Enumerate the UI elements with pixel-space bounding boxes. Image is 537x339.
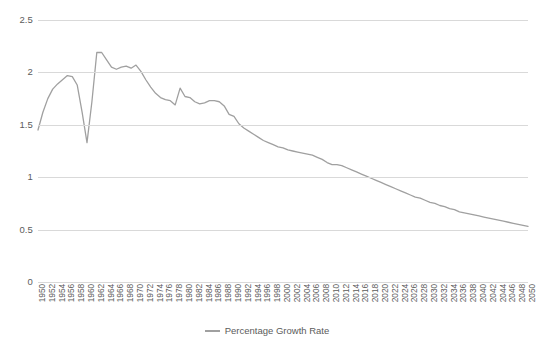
- gridline-1: [38, 177, 528, 178]
- x-axis-tick-2042: 2042: [484, 284, 494, 326]
- x-axis-tick-1952: 1952: [43, 284, 53, 326]
- x-axis-tick-1974: 1974: [151, 284, 161, 326]
- plot-area: [38, 20, 528, 282]
- y-axis: 2.521.510.50: [0, 20, 33, 282]
- x-axis-tick-2020: 2020: [376, 284, 386, 326]
- x-axis-tick-1956: 1956: [62, 284, 72, 326]
- y-axis-tick-2: 2: [3, 67, 33, 77]
- legend-label-percentage-growth-rate: Percentage Growth Rate: [225, 325, 330, 336]
- x-axis-tick-2006: 2006: [307, 284, 317, 326]
- gridline-2.5: [38, 20, 528, 21]
- x-axis-tick-label: 2050: [528, 284, 537, 302]
- x-axis-tick-2016: 2016: [356, 284, 366, 326]
- x-axis-tick-2018: 2018: [366, 284, 376, 326]
- x-axis-tick-2036: 2036: [454, 284, 464, 326]
- gridline-1.5: [38, 125, 528, 126]
- x-axis-tick-1964: 1964: [102, 284, 112, 326]
- chart-legend: Percentage Growth Rate: [0, 325, 534, 336]
- y-axis-tick-1: 1: [3, 172, 33, 182]
- x-axis-tick-1996: 1996: [258, 284, 268, 326]
- chart-title: [38, 0, 498, 3]
- gridline-0.5: [38, 230, 528, 231]
- x-axis-tick-2000: 2000: [278, 284, 288, 326]
- x-axis-tick-1976: 1976: [160, 284, 170, 326]
- x-axis-tick-1958: 1958: [72, 284, 82, 326]
- y-axis-tick-1.5: 1.5: [3, 120, 33, 130]
- x-axis-tick-2004: 2004: [298, 284, 308, 326]
- gridline-2: [38, 72, 528, 73]
- x-axis-tick-1950: 1950: [33, 284, 43, 326]
- x-axis-tick-1968: 1968: [121, 284, 131, 326]
- legend-line-swatch: [205, 330, 220, 332]
- x-axis-tick-1992: 1992: [239, 284, 249, 326]
- x-axis-tick-1980: 1980: [180, 284, 190, 326]
- x-axis-tick-1982: 1982: [190, 284, 200, 326]
- x-axis-tick-1998: 1998: [268, 284, 278, 326]
- x-axis-tick-2030: 2030: [425, 284, 435, 326]
- x-axis-tick-1988: 1988: [219, 284, 229, 326]
- x-axis-tick-2014: 2014: [347, 284, 357, 326]
- x-axis-tick-1970: 1970: [131, 284, 141, 326]
- x-axis: 1950195219541956195819601962196419661968…: [38, 284, 528, 328]
- x-axis-tick-2012: 2012: [337, 284, 347, 326]
- x-axis-tick-1960: 1960: [82, 284, 92, 326]
- x-axis-tick-2050: 2050: [523, 284, 533, 326]
- x-axis-tick-2002: 2002: [288, 284, 298, 326]
- x-axis-tick-2034: 2034: [445, 284, 455, 326]
- series-line: [38, 52, 528, 226]
- y-axis-tick-2.5: 2.5: [3, 15, 33, 25]
- x-axis-tick-2024: 2024: [396, 284, 406, 326]
- y-axis-tick-0.5: 0.5: [3, 225, 33, 235]
- x-axis-tick-1966: 1966: [111, 284, 121, 326]
- x-axis-tick-2028: 2028: [415, 284, 425, 326]
- x-axis-tick-2026: 2026: [405, 284, 415, 326]
- x-axis-tick-2032: 2032: [435, 284, 445, 326]
- gridline-0: [38, 282, 528, 283]
- x-axis-tick-2010: 2010: [327, 284, 337, 326]
- x-axis-tick-2040: 2040: [474, 284, 484, 326]
- x-axis-tick-1984: 1984: [200, 284, 210, 326]
- x-axis-tick-1972: 1972: [141, 284, 151, 326]
- x-axis-tick-2022: 2022: [386, 284, 396, 326]
- x-axis-tick-1990: 1990: [229, 284, 239, 326]
- x-axis-tick-2044: 2044: [494, 284, 504, 326]
- x-axis-tick-1994: 1994: [249, 284, 259, 326]
- x-axis-tick-2048: 2048: [513, 284, 523, 326]
- x-axis-tick-2038: 2038: [464, 284, 474, 326]
- x-axis-tick-1954: 1954: [53, 284, 63, 326]
- x-axis-tick-1986: 1986: [209, 284, 219, 326]
- y-axis-tick-0: 0: [3, 277, 33, 287]
- x-axis-tick-2008: 2008: [317, 284, 327, 326]
- x-axis-tick-1962: 1962: [92, 284, 102, 326]
- series-percentage-growth-rate: [38, 20, 528, 282]
- x-axis-tick-1978: 1978: [170, 284, 180, 326]
- x-axis-tick-2046: 2046: [503, 284, 513, 326]
